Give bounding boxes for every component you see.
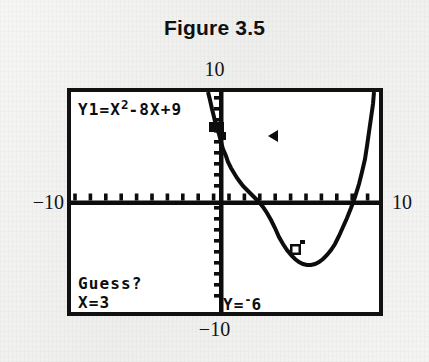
figure-title: Figure 3.5 [0, 16, 429, 40]
guess-prompt: Guess? [78, 276, 142, 292]
x-readout: X=3 [78, 295, 110, 311]
left-triangle-cursor-icon [268, 130, 278, 142]
trace-cursor-marker [290, 240, 305, 255]
parabola-curve [208, 92, 374, 265]
y-intercept-mark [209, 122, 226, 140]
x-axis [71, 201, 379, 206]
axis-label-y-min: −10 [0, 318, 429, 341]
calculator-screen: Y1=X2-8X+9 Guess? X=3 Y=-6 [67, 88, 383, 316]
axis-label-x-min: −10 [8, 191, 64, 214]
equation-readout: Y1=X2-8X+9 [78, 99, 182, 118]
y-readout: Y=-6 [223, 295, 262, 313]
axis-label-x-max: 10 [392, 191, 428, 214]
axis-label-y-max: 10 [0, 58, 429, 81]
